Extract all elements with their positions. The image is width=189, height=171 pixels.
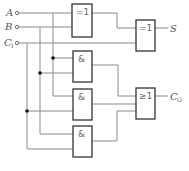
and-gate-2: & (73, 89, 92, 120)
output-label-co: C O (170, 91, 182, 103)
svg-text:≥1: ≥1 (139, 91, 152, 101)
input-terminal-ci (15, 41, 18, 44)
wire-xor1-out (92, 13, 136, 28)
junction-dot (25, 109, 29, 113)
svg-text:=1: =1 (76, 7, 89, 17)
svg-text:&: & (78, 129, 85, 139)
wire-and-to-or (92, 65, 136, 141)
and-gate-1: & (73, 51, 92, 82)
svg-text:=1: =1 (139, 23, 152, 33)
input-label-b: B (4, 21, 12, 32)
input-label-ci: C I (4, 37, 14, 49)
svg-text:I: I (11, 42, 14, 49)
xor-gate-1: =1 (72, 4, 92, 37)
input-terminal-a (15, 11, 18, 14)
svg-text:&: & (78, 92, 85, 102)
logic-circuit-diagram: A B C I (0, 0, 189, 171)
or-gate: ≥1 (136, 88, 155, 119)
svg-text:&: & (78, 54, 85, 64)
xor-gate-2: =1 (136, 20, 155, 51)
junction-dot (38, 71, 42, 75)
and-gate-3: & (73, 126, 92, 157)
input-terminal-b (15, 25, 18, 28)
input-label-a: A (5, 7, 13, 18)
wire-a-and2 (53, 58, 73, 96)
output-label-s: S (170, 23, 177, 34)
svg-text:O: O (177, 96, 182, 103)
junction-dot (51, 56, 55, 60)
